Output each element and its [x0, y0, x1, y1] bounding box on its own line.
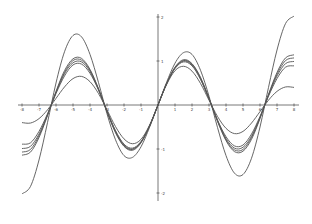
x-tick-label: -1 — [139, 107, 143, 112]
x-tick-label: -7 — [37, 107, 41, 112]
y-tick-label: -1 — [161, 147, 165, 152]
y-axis: -2-112 — [157, 14, 166, 201]
x-tick-label: 4 — [225, 107, 228, 112]
x-tick-label: -2 — [122, 107, 126, 112]
x-tick-label: -4 — [88, 107, 92, 112]
y-tick-label: -2 — [161, 191, 165, 196]
x-tick-label: 2 — [191, 107, 194, 112]
y-tick-label: 2 — [161, 15, 164, 20]
y-tick-label: 1 — [161, 59, 164, 64]
x-tick-label: 1 — [174, 107, 177, 112]
line-chart: -8-7-6-5-4-3-2-112345678 -2-112 — [0, 0, 312, 224]
x-tick-label: 5 — [242, 107, 245, 112]
x-tick-label: -5 — [71, 107, 75, 112]
x-tick-label: -6 — [54, 107, 58, 112]
x-tick-label: 7 — [276, 107, 279, 112]
x-tick-label: 3 — [208, 107, 211, 112]
x-tick-label: 8 — [293, 107, 296, 112]
x-tick-label: -8 — [20, 107, 24, 112]
